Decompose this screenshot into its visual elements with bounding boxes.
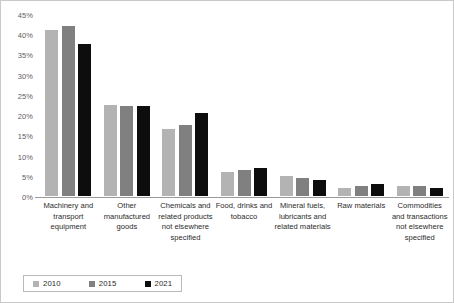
bar-group: [332, 15, 391, 197]
bar-2015[interactable]: [178, 124, 193, 197]
bar-2010[interactable]: [44, 29, 59, 197]
chart-legend: 201020152021: [23, 275, 182, 292]
y-axis-tick: 5%: [22, 172, 33, 181]
bar-2015[interactable]: [295, 177, 310, 197]
legend-item-2015[interactable]: 2015: [89, 279, 117, 288]
bar-2021[interactable]: [194, 112, 209, 197]
legend-label: 2015: [99, 279, 117, 288]
bar-2015[interactable]: [61, 25, 76, 197]
bar-2015[interactable]: [354, 185, 369, 197]
legend-swatch-icon: [33, 281, 39, 287]
bar-groups: [39, 15, 449, 197]
category-label: Machinery and transport equipment: [39, 201, 98, 271]
category-label: Chemicals and related products not elsew…: [156, 201, 215, 271]
bar-2010[interactable]: [220, 171, 235, 197]
bar-2010[interactable]: [103, 104, 118, 197]
legend-swatch-icon: [89, 281, 95, 287]
y-axis-tick: 40%: [18, 31, 33, 40]
category-label: Raw materials: [332, 201, 391, 271]
y-axis-tick: 20%: [18, 112, 33, 121]
category-label: Food, drinks and tobacco: [215, 201, 274, 271]
y-axis-tick: 35%: [18, 51, 33, 60]
bar-2010[interactable]: [396, 185, 411, 197]
bar-2015[interactable]: [119, 105, 134, 197]
bar-chart: 45%40%35%30%25%20%15%10%5%0% Machinery a…: [0, 0, 454, 303]
legend-label: 2021: [155, 279, 173, 288]
x-axis-line: [35, 197, 449, 198]
bar-2021[interactable]: [370, 183, 385, 197]
y-axis-tick: 15%: [18, 132, 33, 141]
bar-group: [390, 15, 449, 197]
legend-label: 2010: [43, 279, 61, 288]
bar-2010[interactable]: [337, 187, 352, 197]
bar-2021[interactable]: [136, 105, 151, 197]
legend-swatch-icon: [145, 281, 151, 287]
bar-2021[interactable]: [253, 167, 268, 197]
bar-2010[interactable]: [279, 175, 294, 197]
y-axis: 45%40%35%30%25%20%15%10%5%0%: [1, 1, 37, 201]
y-axis-tick: 10%: [18, 152, 33, 161]
bar-2021[interactable]: [77, 43, 92, 197]
bar-2021[interactable]: [312, 179, 327, 197]
category-label: Mineral fuels, lubricants and related ma…: [273, 201, 332, 271]
y-axis-tick: 45%: [18, 11, 33, 20]
legend-item-2010[interactable]: 2010: [33, 279, 61, 288]
category-label: Commodities and transactions not elsewhe…: [390, 201, 449, 271]
y-axis-tick: 0%: [22, 193, 33, 202]
bar-group: [273, 15, 332, 197]
legend-item-2021[interactable]: 2021: [145, 279, 173, 288]
y-axis-tick: 25%: [18, 91, 33, 100]
bar-group: [98, 15, 157, 197]
bar-2021[interactable]: [429, 187, 444, 197]
category-label: Other manufactured goods: [98, 201, 157, 271]
bar-group: [215, 15, 274, 197]
bar-2015[interactable]: [412, 185, 427, 197]
bar-group: [156, 15, 215, 197]
bar-group: [39, 15, 98, 197]
bar-2015[interactable]: [237, 169, 252, 197]
category-labels: Machinery and transport equipmentOther m…: [39, 201, 449, 271]
bar-2010[interactable]: [161, 128, 176, 197]
y-axis-tick: 30%: [18, 71, 33, 80]
